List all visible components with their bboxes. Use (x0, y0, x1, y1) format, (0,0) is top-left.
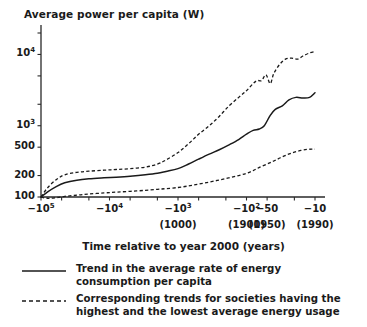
series-lowest-usage-line (41, 149, 315, 198)
x-tick-sublabel: (1990) (297, 219, 334, 230)
y-tick-label: 103 (0, 119, 35, 130)
series-highest-usage-line (41, 52, 315, 198)
y-tick-label: 500 (0, 140, 35, 151)
legend-label-dashed: Corresponding trends for societies havin… (76, 293, 356, 318)
legend-solid-line-icon (22, 264, 70, 277)
series-average-trend-line (41, 93, 315, 197)
figure-container: Average power per capita (W) 10410350020… (0, 0, 367, 327)
axes (38, 25, 326, 201)
x-tick-label: −10 (304, 203, 326, 214)
chart-legend: Trend in the average rate of energy cons… (22, 263, 362, 323)
series-group (41, 52, 315, 199)
legend-label-solid: Trend in the average rate of energy cons… (76, 263, 356, 288)
y-tick-label: 104 (0, 47, 35, 58)
x-tick-label: −103 (164, 203, 191, 214)
x-tick-label: −104 (96, 203, 123, 214)
legend-dashed-line-icon (22, 294, 70, 307)
y-tick-label: 200 (0, 169, 35, 180)
x-tick-sublabel: (1950) (249, 219, 286, 230)
legend-item-solid: Trend in the average rate of energy cons… (22, 263, 362, 288)
x-axis-title: Time relative to year 2000 (years) (0, 240, 367, 252)
y-tick-label: 100 (0, 190, 35, 201)
x-tick-label: −50 (256, 203, 278, 214)
legend-item-dashed: Corresponding trends for societies havin… (22, 293, 362, 318)
x-tick-label: −105 (27, 203, 54, 214)
x-tick-sublabel: (1000) (160, 219, 197, 230)
